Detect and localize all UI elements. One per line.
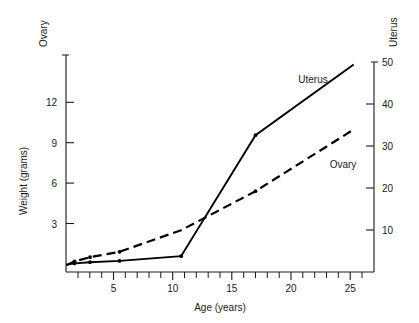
left-tick-label-3: 3 xyxy=(51,219,57,230)
x-axis-minor-ticks xyxy=(78,272,362,278)
chart-figure: Ovary Uterus 12 9 6 3 Weight (grams) 50 … xyxy=(0,0,419,323)
x-tick-label-10: 10 xyxy=(167,283,179,294)
right-axis-line xyxy=(371,62,378,272)
x-tick-label-20: 20 xyxy=(285,283,297,294)
x-tick-label-15: 15 xyxy=(226,283,238,294)
chart-canvas: Ovary Uterus 12 9 6 3 Weight (grams) 50 … xyxy=(0,0,419,323)
x-axis-title: Age (years) xyxy=(194,302,246,313)
uterus-curve xyxy=(66,65,353,265)
left-axis-header: Ovary xyxy=(38,20,49,47)
left-tick-label-12: 12 xyxy=(46,97,58,108)
left-axis-ticks xyxy=(66,102,74,223)
left-axis-title: Weight (grams) xyxy=(18,147,29,215)
ovary-curve xyxy=(66,130,353,266)
right-tick-label-30: 30 xyxy=(382,141,394,152)
right-tick-label-40: 40 xyxy=(382,99,394,110)
uterus-data-markers xyxy=(73,133,258,265)
x-tick-label-25: 25 xyxy=(345,283,357,294)
x-tick-label-5: 5 xyxy=(111,283,117,294)
left-tick-label-6: 6 xyxy=(51,178,57,189)
uterus-series-label: Uterus xyxy=(298,74,327,85)
left-tick-label-9: 9 xyxy=(51,138,57,149)
right-tick-label-10: 10 xyxy=(382,225,394,236)
ovary-series-label: Ovary xyxy=(330,159,357,170)
ovary-data-markers xyxy=(73,189,258,263)
right-tick-label-20: 20 xyxy=(382,183,394,194)
right-tick-label-50: 50 xyxy=(382,57,394,68)
right-axis-header: Uterus xyxy=(388,18,399,47)
left-axis-line xyxy=(62,55,69,272)
right-axis-ticks xyxy=(366,104,374,230)
